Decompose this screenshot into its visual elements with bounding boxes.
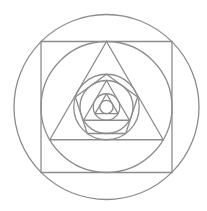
geometric-diagram bbox=[0, 0, 207, 211]
innermost-circle bbox=[100, 100, 113, 113]
circle-in-square bbox=[41, 42, 172, 173]
circle-in-large-triangle bbox=[74, 74, 140, 140]
square bbox=[41, 42, 172, 173]
circle-in-pentagon bbox=[80, 81, 133, 134]
large-triangle bbox=[50, 42, 163, 140]
circle-in-medium-triangle bbox=[93, 94, 120, 121]
diagram-svg bbox=[0, 0, 207, 211]
